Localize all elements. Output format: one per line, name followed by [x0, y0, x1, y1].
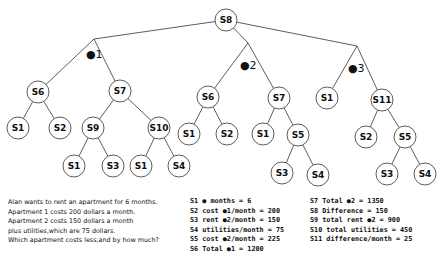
svg-text:S8: S8 [220, 15, 233, 25]
branch-label-1: ●1 [86, 48, 103, 61]
tree-node-s1: S1 [7, 117, 29, 139]
tree-edge [213, 107, 222, 124]
svg-text:S7: S7 [273, 93, 286, 103]
step-s8: S8 Difference = 150 [310, 207, 412, 217]
tree-edge [79, 138, 88, 156]
tree-edge [286, 145, 293, 163]
svg-text:S5: S5 [399, 132, 412, 142]
problem-line: Apartment 1 costs 200 dollars a month. [8, 208, 168, 218]
tree-node-s3: S3 [376, 163, 398, 185]
tree-edge [23, 102, 32, 119]
tree-node-s1: S1 [63, 155, 85, 177]
tree-edge [410, 147, 420, 165]
step-s7: S7 Total ●2 = 1350 [310, 197, 412, 207]
svg-text:S1: S1 [135, 161, 148, 171]
tree-edge [44, 101, 55, 118]
tree-node-s5: S5 [394, 126, 416, 148]
svg-text:S3: S3 [276, 168, 289, 178]
tree-node-s2: S2 [355, 126, 377, 148]
tree-node-s1: S1 [316, 87, 338, 109]
svg-text:S6: S6 [32, 87, 45, 97]
tree-edge [99, 100, 113, 119]
tree-node-s1: S1 [130, 155, 152, 177]
tree-edge [388, 109, 399, 127]
step-s9: S9 total rent ●2 = 900 [310, 216, 412, 226]
svg-text:S2: S2 [360, 132, 373, 142]
tree-node-s3: S3 [271, 162, 293, 184]
tree-edge [94, 22, 215, 39]
svg-text:S4: S4 [419, 169, 432, 179]
tree-edge [303, 145, 313, 165]
tree-edge [267, 108, 274, 124]
svg-text:S1: S1 [12, 123, 25, 133]
step-s1: S1 ● months = 6 [190, 197, 284, 207]
tree-edge [392, 147, 400, 164]
step-s5: S5 cost ●2/month = 225 [190, 235, 284, 245]
tree-node-s10: S10 [148, 117, 170, 139]
tree-node-s6: S6 [197, 86, 219, 108]
tree-edge [370, 110, 377, 127]
tree-node-s1: S1 [252, 123, 274, 145]
problem-line: plus utilities,which are 75 dollars. [8, 227, 168, 237]
svg-text:S1: S1 [321, 93, 334, 103]
tree-edge [194, 107, 203, 124]
tree-node-s1: S1 [178, 123, 200, 145]
svg-text:S3: S3 [107, 161, 120, 171]
step-legend-right: S7 Total ●2 = 1350 S8 Difference = 150 S… [310, 197, 412, 245]
branch-label-2: ●2 [240, 59, 257, 72]
tree-node-s8: S8 [215, 9, 237, 31]
problem-line: Which apartment costs less,and by how mu… [8, 236, 168, 246]
svg-text:S4: S4 [173, 161, 186, 171]
branch-label-3: ●3 [348, 62, 365, 75]
tree-edge [284, 108, 293, 125]
svg-text:S1: S1 [183, 129, 196, 139]
tree-node-s2: S2 [49, 117, 71, 139]
tree-node-s4: S4 [414, 163, 436, 185]
tree-node-s3: S3 [102, 155, 124, 177]
svg-text:S5: S5 [292, 130, 305, 140]
tree-node-s4: S4 [307, 164, 329, 186]
step-s10: S10 total utilities = 450 [310, 226, 412, 236]
step-s4: S4 utilities/month = 75 [190, 226, 284, 236]
svg-text:S1: S1 [68, 161, 81, 171]
tree-node-s7: S7 [109, 80, 131, 102]
tree-edge [128, 99, 151, 121]
tree-edge [237, 22, 357, 46]
svg-text:S6: S6 [202, 92, 215, 102]
step-s3: S3 rent ●2/month = 150 [190, 216, 284, 226]
tree-node-s5: S5 [287, 124, 309, 146]
svg-text:S1: S1 [257, 129, 270, 139]
svg-text:S9: S9 [87, 123, 100, 133]
solution-tree: S8S6S7S1S2S9S10S1S3S1S4S6S7S1S2S1S5S3S4S… [0, 0, 444, 195]
step-s6: S6 Total ●1 = 1200 [190, 245, 284, 255]
svg-text:S2: S2 [221, 129, 234, 139]
tree-node-s4: S4 [168, 155, 190, 177]
svg-text:S7: S7 [114, 86, 127, 96]
svg-text:S3: S3 [381, 169, 394, 179]
svg-text:S11: S11 [372, 95, 391, 105]
tree-node-s6: S6 [27, 81, 49, 103]
tree-edge [98, 138, 108, 157]
step-legend-left: S1 ● months = 6 S2 cost ●1/month = 200 S… [190, 197, 284, 254]
problem-statement: Alan wants to rent an apartment for 6 mo… [8, 198, 168, 246]
step-s2: S2 cost ●1/month = 200 [190, 207, 284, 217]
svg-text:S2: S2 [54, 123, 67, 133]
tree-node-s7: S7 [268, 87, 290, 109]
tree-edge [234, 28, 248, 43]
tree-node-s2: S2 [216, 123, 238, 145]
tree-node-s9: S9 [82, 117, 104, 139]
tree-edge [46, 39, 94, 84]
svg-text:S4: S4 [312, 170, 325, 180]
step-s11: S11 difference/month = 25 [310, 235, 412, 245]
tree-node-s11: S11 [371, 89, 393, 111]
tree-edge [146, 138, 155, 156]
tree-edge [164, 138, 174, 157]
svg-text:S10: S10 [149, 123, 168, 133]
problem-line: Apartment 2 costs 150 dollars a month [8, 217, 168, 227]
problem-line: Alan wants to rent an apartment for 6 mo… [8, 198, 168, 208]
